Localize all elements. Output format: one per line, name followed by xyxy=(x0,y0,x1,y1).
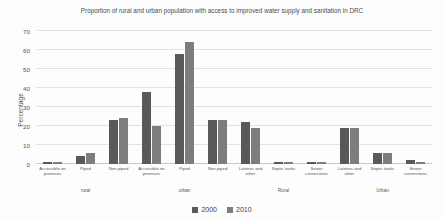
x-axis-category-label: Septic tanks xyxy=(267,166,300,171)
x-axis-category-label: Non piped xyxy=(102,166,135,171)
x-axis-section-labels: ruralurbanRuralUrban xyxy=(36,188,432,198)
bar xyxy=(43,162,52,164)
legend-item[interactable]: 2000 xyxy=(192,206,217,213)
x-axis-category-label: Accessible on premises xyxy=(135,166,168,177)
y-axis-tick-label: 0 xyxy=(6,161,30,168)
bar xyxy=(76,156,85,164)
bar-group xyxy=(234,31,267,164)
bar-group xyxy=(36,31,69,164)
bar xyxy=(317,162,326,164)
bar-group xyxy=(366,31,399,164)
bar xyxy=(109,120,118,164)
legend-item[interactable]: 2010 xyxy=(227,206,252,213)
y-axis-tick-label: 40 xyxy=(6,85,30,92)
bar xyxy=(142,92,151,164)
plot-area xyxy=(36,31,432,164)
y-axis-tick-label: 70 xyxy=(6,28,30,35)
bar-group xyxy=(267,31,300,164)
legend-label: 2010 xyxy=(236,206,252,213)
legend-swatch-icon xyxy=(227,207,233,213)
bar-group xyxy=(135,31,168,164)
bar-group xyxy=(300,31,333,164)
bar xyxy=(119,118,128,164)
bar xyxy=(86,153,95,164)
bar xyxy=(284,162,293,164)
x-axis-section-label: Urban xyxy=(333,188,432,193)
x-axis-category-label: Sewer connections xyxy=(399,166,432,177)
bar-group xyxy=(333,31,366,164)
x-axis-section-label: Rural xyxy=(234,188,333,193)
x-axis-section-label: rural xyxy=(36,188,135,193)
y-axis-tick-label: 60 xyxy=(6,47,30,54)
bar-group xyxy=(102,31,135,164)
bar xyxy=(416,162,425,164)
bar xyxy=(274,162,283,164)
bar xyxy=(373,153,382,164)
legend-label: 2000 xyxy=(201,206,217,213)
bar-group xyxy=(69,31,102,164)
bars-layer xyxy=(36,31,432,164)
chart-legend: 20002010 xyxy=(0,206,444,213)
bar-group xyxy=(168,31,201,164)
bar xyxy=(350,128,359,164)
y-axis-tick-label: 30 xyxy=(6,104,30,111)
bar xyxy=(241,122,250,164)
y-axis-tick-label: 50 xyxy=(6,66,30,73)
bar xyxy=(340,128,349,164)
bar xyxy=(251,128,260,164)
x-axis-category-label: Sewer connections xyxy=(300,166,333,177)
y-axis-tick-label: 20 xyxy=(6,123,30,130)
bar xyxy=(406,160,415,164)
chart-title: Proportion of rural and urban population… xyxy=(0,7,444,14)
bar xyxy=(175,54,184,164)
x-axis-category-label: Piped xyxy=(69,166,102,171)
bar-group xyxy=(399,31,432,164)
x-axis-category-labels: Accessible on premisesPipedNon pipedAcce… xyxy=(36,166,432,188)
legend-swatch-icon xyxy=(192,207,198,213)
bar xyxy=(152,126,161,164)
x-axis-category-label: Septic tanks xyxy=(366,166,399,171)
bar xyxy=(383,153,392,164)
x-axis-category-label: Latrines and other xyxy=(333,166,366,177)
bar-group xyxy=(201,31,234,164)
bar xyxy=(185,42,194,164)
chart-container: Proportion of rural and urban population… xyxy=(0,0,444,219)
bar xyxy=(208,120,217,164)
bar xyxy=(53,162,62,164)
x-axis-category-label: Piped xyxy=(168,166,201,171)
y-axis-tick-label: 10 xyxy=(6,142,30,149)
bar xyxy=(307,162,316,164)
x-axis-category-label: Accessible on premises xyxy=(36,166,69,177)
x-axis-section-label: urban xyxy=(135,188,234,193)
x-axis-category-label: Non piped xyxy=(201,166,234,171)
bar xyxy=(218,120,227,164)
x-axis-category-label: Latrines and other xyxy=(234,166,267,177)
